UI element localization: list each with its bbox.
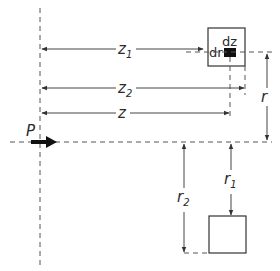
z-label: z — [117, 104, 127, 122]
point-p-label: P — [26, 122, 36, 140]
r-label: r — [261, 88, 268, 106]
diagram-canvas: P dz dr z1 z2 z r r1 r2 — [0, 0, 280, 271]
lower-ring-box — [209, 216, 246, 253]
dz-label: dz — [222, 34, 237, 49]
